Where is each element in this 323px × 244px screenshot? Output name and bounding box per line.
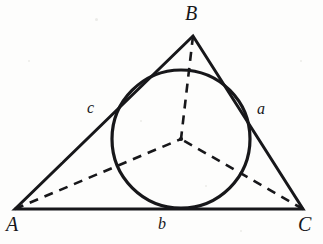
side-label-b: b (158, 216, 166, 232)
vertex-label-A: A (6, 214, 18, 234)
side-label-a: a (257, 101, 265, 117)
vertex-label-C: C (298, 214, 312, 234)
bisector-line-b (181, 36, 193, 139)
vertex-label-B: B (185, 3, 197, 23)
bisector-line-c (181, 139, 303, 209)
incenter-point (179, 137, 183, 141)
incenter-group (179, 137, 183, 141)
geometry-figure: B A C c a b (0, 0, 323, 244)
side-label-c: c (87, 100, 94, 116)
bisector-line-a (15, 139, 181, 209)
angle-bisectors-group (15, 36, 303, 209)
diagram-canvas (0, 0, 323, 244)
